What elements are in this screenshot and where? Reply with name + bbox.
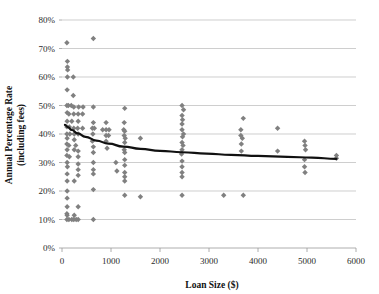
data-point [64,118,69,123]
data-point [179,158,184,163]
data-point [122,140,127,145]
data-point [91,171,96,176]
scatter-chart: 0%10%20%30%40%50%60%70%80% 0100020003000… [0,0,379,294]
data-point [103,120,108,125]
data-point [75,126,80,131]
data-point [75,161,80,166]
data-point [64,188,69,193]
y-tick-label: 80% [39,15,56,25]
data-point [75,167,80,172]
data-point [91,144,96,149]
data-point [91,187,96,192]
y-axis-title-line2: (including fees) [16,104,27,166]
data-point [302,164,307,169]
data-point [104,146,109,151]
data-point [75,204,80,209]
data-point [65,59,70,64]
data-point [91,36,96,41]
data-points-group [64,36,339,222]
x-tick-label: 6000 [347,256,366,266]
data-point [302,143,307,148]
data-point [122,163,127,168]
data-point [179,121,184,126]
data-point [241,116,246,121]
data-point [64,87,69,92]
y-tickmarks-group [59,20,62,248]
data-point [122,120,127,125]
data-point [91,217,96,222]
y-tick-label: 0% [43,243,56,253]
data-point [334,153,339,158]
data-point [239,148,244,153]
data-point [179,174,184,179]
data-point [80,104,85,109]
data-point [91,150,96,155]
x-tick-label: 2000 [151,256,170,266]
data-point [179,113,184,118]
data-point [71,74,76,79]
data-point [64,40,69,45]
y-axis-title-line1: Annual Percentage Rate [4,86,14,185]
data-point [91,120,96,125]
y-tick-label: 40% [39,129,56,139]
data-point [179,103,184,108]
data-point [64,136,69,141]
data-point [106,127,111,132]
data-point [122,178,127,183]
x-tick-label: 5000 [298,256,317,266]
data-point [72,137,77,142]
data-point [80,126,85,131]
data-point [180,117,185,122]
data-point [221,193,226,198]
data-point [64,178,69,183]
x-axis-title: Loan Size ($) [185,280,238,291]
data-point [71,93,76,98]
data-point [64,171,69,176]
y-tick-label: 70% [39,44,56,54]
data-point [72,178,77,183]
y-tick-label: 20% [39,186,56,196]
y-tick-label: 30% [39,158,56,168]
x-tick-label: 1000 [102,256,121,266]
data-point [275,148,280,153]
data-point [80,111,85,116]
data-point [179,193,184,198]
data-point [122,193,127,198]
data-point [73,143,78,148]
y-tick-labels-group: 0%10%20%30%40%50%60%70%80% [39,15,56,253]
data-point [303,147,308,152]
data-point [113,160,118,165]
data-point [181,107,186,112]
data-point [90,131,95,136]
data-point [138,194,143,199]
data-point [238,127,243,132]
data-point [91,160,96,165]
data-point [179,164,184,169]
data-point [65,164,70,169]
data-point [302,138,307,143]
data-point [64,204,69,209]
data-point [69,118,74,123]
data-point [122,157,127,162]
y-tick-label: 60% [39,72,56,82]
data-point [64,195,69,200]
x-tick-labels-group: 0100020003000400050006000 [60,256,366,266]
x-tick-label: 0 [60,256,65,266]
chart-canvas: 0%10%20%30%40%50%60%70%80% 0100020003000… [0,0,379,294]
data-point [75,173,80,178]
data-point [239,141,244,146]
data-point [275,126,280,131]
data-point [114,168,119,173]
data-point [179,127,184,132]
data-point [302,170,307,175]
data-point [75,118,80,123]
data-point [122,106,127,111]
data-point [65,74,70,79]
data-point [75,154,80,159]
data-point [91,104,96,109]
data-point [138,136,143,141]
x-tick-label: 3000 [200,256,219,266]
data-point [241,193,246,198]
x-tick-label: 4000 [249,256,268,266]
x-axis-group [62,248,356,252]
